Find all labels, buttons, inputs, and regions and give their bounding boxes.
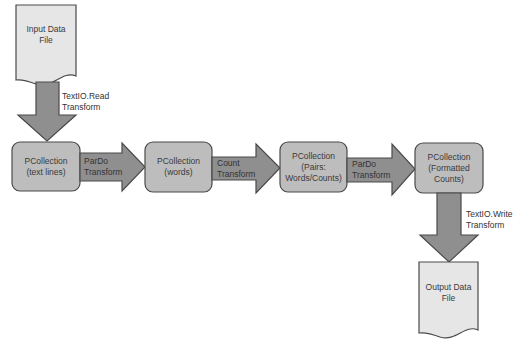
pardo1-line2: Transform bbox=[84, 167, 122, 177]
node3-line1: PCollection bbox=[292, 151, 335, 162]
pcollection-pairs-label: PCollection (Pairs: Words/Counts) bbox=[280, 142, 347, 192]
node1-line2: (text lines) bbox=[26, 167, 65, 178]
write-transform-line2: Transform bbox=[466, 220, 504, 230]
node4-line2: (Formatted bbox=[428, 163, 470, 174]
pcollection-formatted-counts-label: PCollection (Formatted Counts) bbox=[415, 143, 483, 193]
pcollection-words-label: PCollection (words) bbox=[145, 142, 212, 192]
write-transform-label: TextIO.Write Transform bbox=[466, 209, 513, 231]
node3-line3: Words/Counts) bbox=[285, 173, 342, 184]
pardo2-line1: ParDo bbox=[352, 159, 376, 169]
pardo-transform-label-1: ParDo Transform bbox=[84, 156, 122, 178]
write-transform-line1: TextIO.Write bbox=[466, 209, 513, 219]
count-line1: Count bbox=[217, 158, 240, 168]
read-transform-line2: Transform bbox=[62, 102, 100, 112]
node1-line1: PCollection bbox=[25, 156, 68, 167]
read-transform-label: TextIO.Read Transform bbox=[62, 91, 109, 113]
output-file-line2: File bbox=[442, 293, 456, 304]
pcollection-text-lines-label: PCollection (text lines) bbox=[12, 142, 80, 191]
pardo2-line2: Transform bbox=[352, 170, 390, 180]
input-file-line1: Input Data bbox=[26, 24, 65, 35]
count-line2: Transform bbox=[217, 169, 255, 179]
node4-line1: PCollection bbox=[428, 152, 471, 163]
node2-line1: PCollection bbox=[157, 156, 200, 167]
node2-line2: (words) bbox=[164, 167, 192, 178]
input-file-label: Input Data File bbox=[16, 22, 76, 48]
output-file-line1: Output Data bbox=[426, 282, 472, 293]
count-transform-label: Count Transform bbox=[217, 158, 255, 180]
node4-line3: Counts) bbox=[434, 174, 464, 185]
pardo-transform-label-2: ParDo Transform bbox=[352, 159, 390, 181]
pardo1-line1: ParDo bbox=[84, 156, 108, 166]
input-file-line2: File bbox=[39, 35, 53, 46]
output-file-label: Output Data File bbox=[419, 280, 478, 306]
node3-line2: (Pairs: bbox=[301, 162, 326, 173]
read-transform-line1: TextIO.Read bbox=[62, 91, 109, 101]
